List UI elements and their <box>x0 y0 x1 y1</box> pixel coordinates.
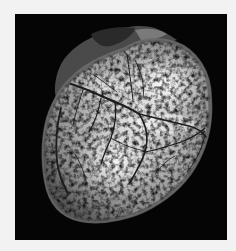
image-panel <box>15 14 227 240</box>
image-frame <box>0 0 236 251</box>
heart-image <box>15 14 227 240</box>
